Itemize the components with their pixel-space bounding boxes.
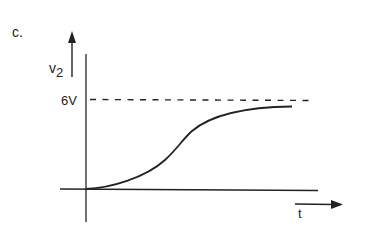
asymptote-label: 6V [61,93,77,108]
panel-label: c. [12,24,23,40]
voltage-curve [86,107,292,190]
x-axis [60,189,318,191]
x-label-arrow [295,200,343,209]
y-label-arrow [68,31,76,77]
x-axis-label: t [298,206,302,221]
voltage-time-diagram: c. v2 6V t [0,0,365,236]
y-axis-label: v2 [49,60,63,80]
asymptote-dashed-line [90,100,314,101]
